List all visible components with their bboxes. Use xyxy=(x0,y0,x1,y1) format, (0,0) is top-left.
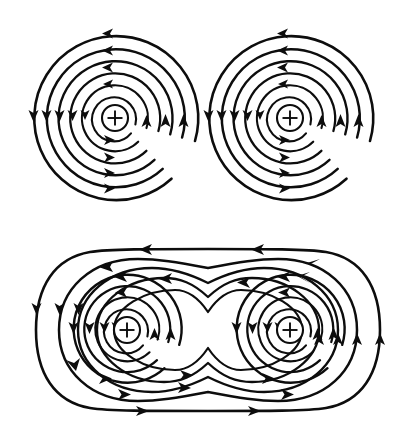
field-line-canvas xyxy=(0,0,398,441)
wire-core-bottom-left xyxy=(114,317,140,343)
separate-conductors-panel xyxy=(0,0,398,210)
field-line-figure xyxy=(0,0,398,441)
combined-field-panel xyxy=(0,225,398,441)
wire-core-bottom-right xyxy=(277,317,303,343)
wire-core-top-right xyxy=(277,105,303,131)
wire-core-top-left xyxy=(102,105,128,131)
